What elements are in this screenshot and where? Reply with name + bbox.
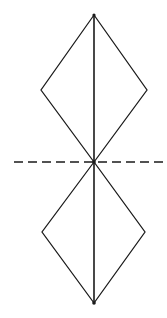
vertex-dot-bottom-apex	[92, 301, 96, 305]
geometric-figure	[0, 0, 167, 318]
vertex-dot-center	[92, 160, 96, 164]
vertex-dot-top-apex	[92, 13, 95, 16]
figure-canvas	[0, 0, 167, 318]
